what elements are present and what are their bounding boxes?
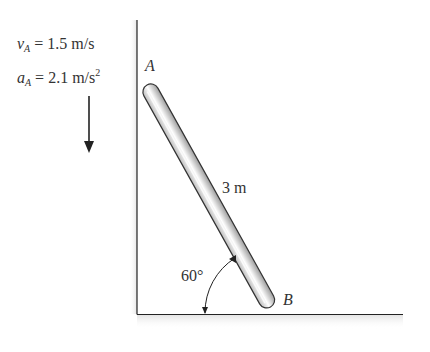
velocity-subscript: A (24, 43, 30, 54)
rod-ab (140, 81, 278, 311)
acceleration-symbol: a (17, 69, 25, 86)
velocity-value: 1.5 m/s (47, 35, 94, 52)
floor-shading (137, 315, 403, 329)
velocity-equals: = (34, 35, 43, 52)
velocity-label: vA = 1.5 m/s (17, 36, 94, 54)
acceleration-equals: = (35, 69, 44, 86)
acceleration-subscript: A (25, 77, 31, 88)
point-b-label: B (283, 292, 293, 308)
angle-label: 60° (181, 268, 203, 284)
acceleration-value: 2.1 m/s (48, 69, 95, 86)
arrow-down-icon (84, 141, 94, 153)
acceleration-label: aA = 2.1 m/s2 (17, 68, 100, 88)
angle-arrowhead-floor-icon (202, 307, 208, 314)
rod-length-label: 3 m (222, 180, 246, 196)
wall-shading (129, 20, 137, 314)
point-a-label: A (145, 58, 155, 74)
angle-arc (205, 258, 235, 313)
acceleration-exponent: 2 (95, 67, 100, 78)
